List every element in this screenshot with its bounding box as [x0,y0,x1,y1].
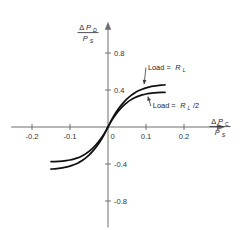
y-tick-label: 0.4 [114,86,125,95]
x-tick-label: -0.2 [25,132,38,141]
svg-text:Δ P C: Δ P C [211,117,229,127]
svg-text:P S: P S [215,128,226,138]
x-tick-label: 0 [111,132,115,141]
annotation-load-rl-half-symbol: R [180,101,186,110]
y-tick-label: -0.8 [114,197,127,206]
svg-text:Load = R L: Load = R L [148,63,186,73]
annotation-load-rl-subscript: L [183,67,186,73]
y-axis-title-numerator-subscript: D [93,27,97,33]
y-axis-title-delta: Δ [79,23,84,32]
annotation-load-rl-half-suffix: /2 [193,101,199,110]
annotation-load-rl-arrow [142,80,146,85]
annotation-load-rl-half-text: Load = [153,101,176,110]
svg-text:Δ P D: Δ P D [79,23,97,33]
x-axis-title-numerator-subscript: C [225,121,229,127]
x-axis-title-delta: Δ [211,117,216,126]
annotation-load-rl-half-subscript: L [188,105,191,111]
x-tick-label: 0.1 [141,132,152,141]
annotation-label-load-rl-half: Load = R L /2 [153,101,199,112]
annotation-load-rl-half-arrow [146,96,151,101]
y-tick-label: -0.4 [114,160,127,169]
y-axis-title-denominator: P [83,34,88,43]
x-axis-tick-labels: -0.2-0.100.10.2 [25,132,189,141]
x-axis-title-denominator-subscript: S [222,132,226,138]
y-axis-title-numerator: P [86,23,91,32]
x-axis [11,124,225,130]
x-axis-title-denominator: P [215,128,220,137]
y-axis-title-denominator-subscript: S [90,38,94,44]
x-tick-label: -0.1 [63,132,76,141]
svg-text:Load = R L: Load = R L /2 [153,101,199,112]
annotation-load-rl-text: Load = [148,63,171,72]
svg-text:P S: P S [83,34,94,44]
annotation-label-load-rl: Load = R L [148,63,186,73]
chart-figure: -0.2-0.100.10.2 0.80.4-0.4-0.8 Load = R … [0,0,244,230]
x-tick-label: 0.2 [179,132,190,141]
chart-plot-area: -0.2-0.100.10.2 0.80.4-0.4-0.8 Load = R … [0,0,244,230]
y-axis-title: Δ P D P S [78,23,99,44]
annotation-load-rl-symbol: R [175,63,181,72]
y-tick-label: 0.8 [114,49,125,58]
x-axis-title-numerator: P [218,117,223,126]
